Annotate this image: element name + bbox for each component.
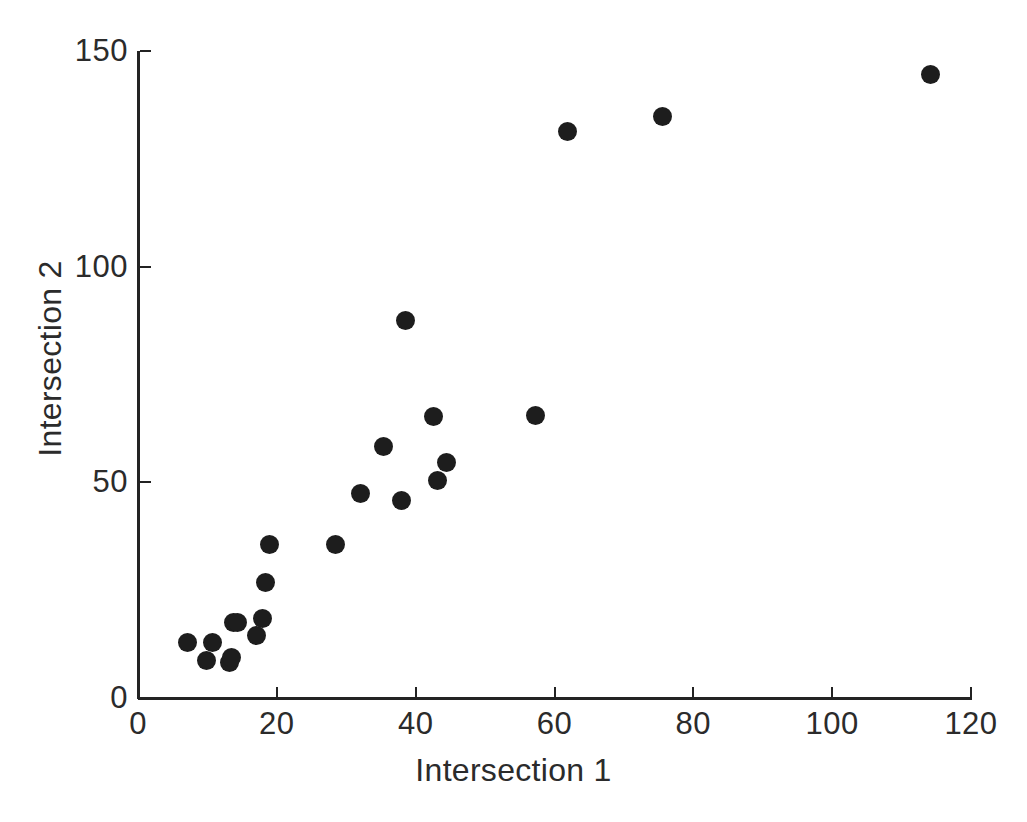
data-point bbox=[396, 311, 415, 330]
data-point bbox=[197, 651, 216, 670]
x-tick-label: 80 bbox=[676, 706, 711, 742]
x-axis-label: Intersection 1 bbox=[0, 752, 1027, 789]
data-point bbox=[203, 633, 222, 652]
scatter-plot-figure: 050100150 020406080100120 Intersection 1… bbox=[0, 0, 1027, 822]
data-point bbox=[351, 484, 370, 503]
plot-area bbox=[138, 51, 971, 698]
x-tick-label: 100 bbox=[806, 706, 859, 742]
data-point bbox=[178, 633, 197, 652]
data-point bbox=[222, 648, 241, 667]
data-point bbox=[253, 609, 272, 628]
x-tick-label: 40 bbox=[398, 706, 433, 742]
data-point bbox=[526, 406, 545, 425]
data-point bbox=[428, 471, 447, 490]
data-point bbox=[392, 491, 411, 510]
data-point bbox=[921, 65, 940, 84]
x-tick-label: 120 bbox=[944, 706, 997, 742]
data-point bbox=[247, 626, 266, 645]
data-point bbox=[228, 613, 247, 632]
x-tick-label: 0 bbox=[129, 706, 147, 742]
data-point bbox=[558, 122, 577, 141]
x-tick-label: 20 bbox=[259, 706, 294, 742]
y-axis-label: Intersection 2 bbox=[32, 59, 69, 659]
data-point bbox=[374, 437, 393, 456]
data-point bbox=[260, 535, 279, 554]
y-tick-label: 0 bbox=[8, 680, 128, 716]
data-point bbox=[256, 573, 275, 592]
data-point bbox=[653, 107, 672, 126]
data-point bbox=[437, 453, 456, 472]
x-tick-label: 60 bbox=[537, 706, 572, 742]
data-point bbox=[326, 535, 345, 554]
data-point bbox=[424, 407, 443, 426]
